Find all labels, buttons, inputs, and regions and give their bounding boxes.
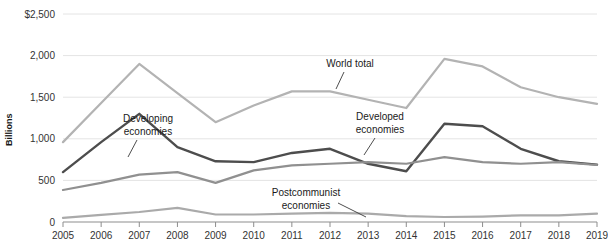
- x-tick-label: 2014: [395, 230, 418, 241]
- y-tick-label: 1,500: [30, 92, 55, 103]
- x-tick-label: 2011: [281, 230, 303, 241]
- y-tick-label: 2,000: [30, 50, 55, 61]
- x-tick-label: 2016: [471, 230, 494, 241]
- annotation-label-world-total: World total: [326, 58, 374, 69]
- annotation-labels-group: World totalDevelopedeconomiesDevelopinge…: [123, 58, 404, 211]
- annotation-label-postcommunist-economies: Postcommunist: [272, 187, 341, 198]
- chart-canvas: $2,5002,0001,5001,0005000 20052006200720…: [0, 0, 608, 252]
- y-tick-label: $2,500: [24, 9, 55, 20]
- annotation-label-developed-economies-line2: economies: [356, 124, 404, 135]
- x-tick-label: 2015: [433, 230, 456, 241]
- x-tick-label: 2008: [166, 230, 189, 241]
- x-tick-label: 2013: [357, 230, 380, 241]
- x-tick-marks-group: [63, 222, 597, 227]
- series-line-developing-economies: [63, 157, 597, 190]
- y-tick-label: 0: [49, 217, 55, 228]
- line-chart: Billions $2,5002,0001,5001,0005000 20052…: [0, 0, 608, 252]
- y-tick-labels-group: $2,5002,0001,5001,0005000: [24, 9, 55, 228]
- annotation-leader-postcommunist-economies: [338, 203, 366, 217]
- annotation-label-developed-economies: Developed: [356, 111, 404, 122]
- annotation-label-developing-economies-line2: economies: [124, 126, 172, 137]
- y-tick-label: 1,000: [30, 133, 55, 144]
- y-tick-label: 500: [38, 175, 55, 186]
- annotation-label-developing-economies: Developing: [123, 113, 173, 124]
- y-axis-title: Billions: [2, 90, 16, 170]
- x-tick-label: 2009: [204, 230, 227, 241]
- x-tick-label: 2017: [510, 230, 533, 241]
- annotation-leader-developing-economies: [128, 140, 137, 157]
- x-tick-labels-group: 2005200620072008200920102011201220132014…: [52, 230, 608, 241]
- x-tick-label: 2007: [128, 230, 151, 241]
- annotation-leader-developed-economies: [364, 138, 375, 155]
- x-tick-label: 2019: [586, 230, 608, 241]
- x-tick-label: 2010: [243, 230, 266, 241]
- x-tick-label: 2006: [90, 230, 113, 241]
- x-tick-label: 2018: [548, 230, 571, 241]
- x-tick-label: 2005: [52, 230, 75, 241]
- x-tick-label: 2012: [319, 230, 342, 241]
- annotation-label-postcommunist-economies-line2: economies: [282, 200, 330, 211]
- annotation-leader-world-total: [336, 72, 344, 89]
